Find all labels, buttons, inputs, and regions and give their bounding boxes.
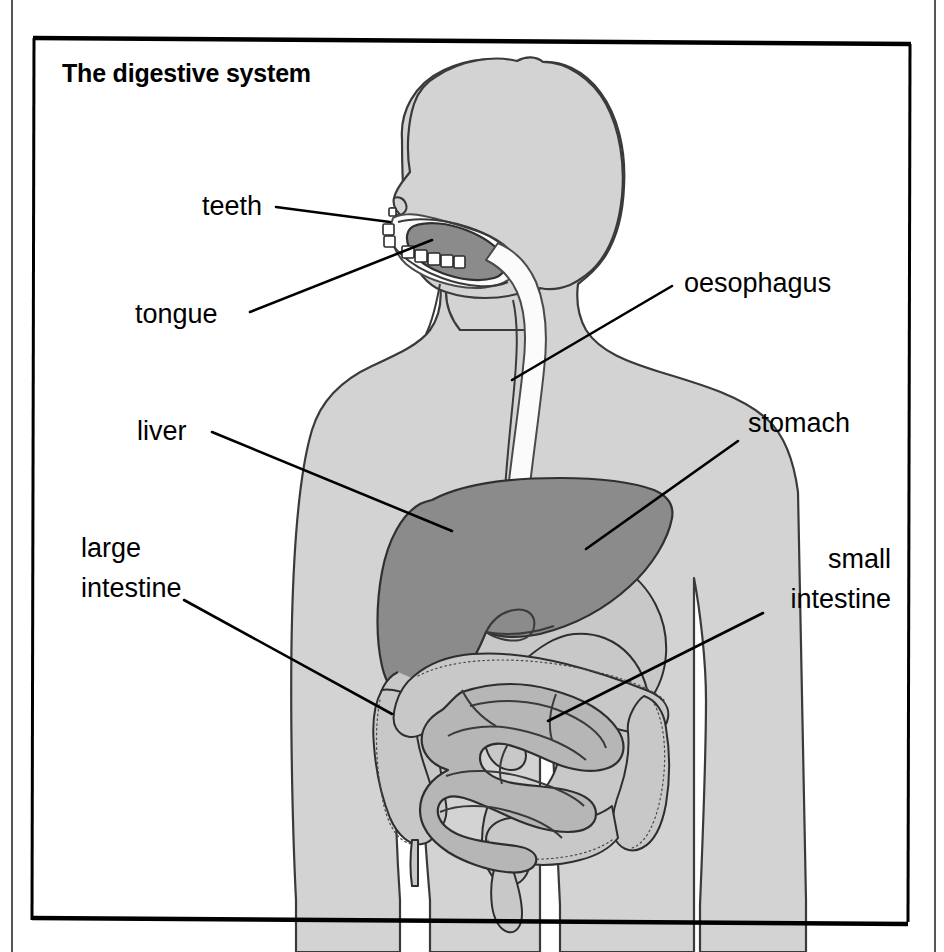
tooth-lower-4	[441, 255, 453, 267]
digestive-system-figure: The digestive system teeth tongue oesoph…	[0, 0, 944, 952]
leader-line-teeth	[276, 207, 390, 222]
label-tongue[interactable]: tongue	[135, 299, 218, 329]
frame-left-line	[32, 38, 34, 920]
label-liver[interactable]: liver	[137, 416, 187, 446]
tooth-upper-2	[384, 236, 395, 247]
tooth-incisor	[389, 208, 396, 216]
head-profile-shape	[394, 57, 623, 330]
label-large-intestine-line1: large	[81, 533, 141, 563]
frame-top-line	[33, 38, 911, 44]
tooth-lower-2	[415, 250, 427, 262]
tooth-lower-3	[428, 253, 440, 265]
label-oesophagus[interactable]: oesophagus	[684, 268, 831, 298]
label-large-intestine[interactable]: large intestine	[81, 533, 182, 603]
diagram-page: The digestive system teeth tongue oesoph…	[0, 0, 944, 952]
frame-right-line	[908, 44, 910, 922]
tooth-upper-1	[383, 224, 394, 235]
diagram-title: The digestive system	[62, 59, 311, 87]
label-small-intestine[interactable]: small intestine	[790, 544, 891, 614]
label-teeth[interactable]: teeth	[202, 191, 262, 221]
label-small-intestine-line1: small	[828, 544, 891, 574]
tooth-lower-5	[454, 256, 465, 268]
label-small-intestine-line2: intestine	[790, 584, 891, 614]
head-profile-group	[392, 57, 623, 334]
appendix-shape	[411, 840, 419, 886]
leader-line-tongue	[250, 240, 432, 312]
label-stomach[interactable]: stomach	[748, 408, 850, 438]
label-large-intestine-line2: intestine	[81, 573, 182, 603]
